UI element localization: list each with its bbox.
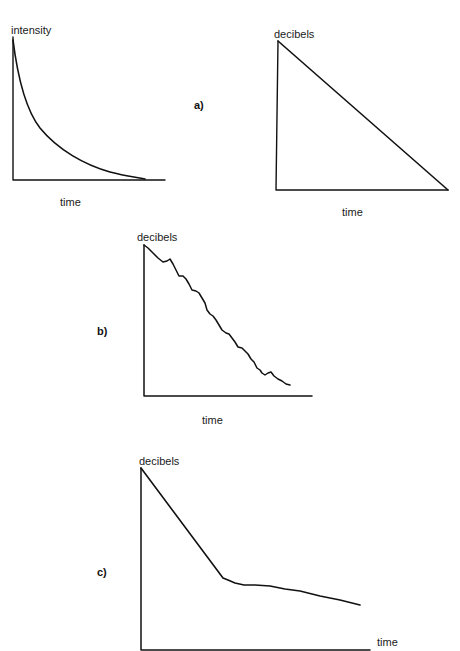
panel-a-decibels-line [278,41,448,190]
panel-c-axes [141,468,370,650]
panel-a-tag: a) [194,99,204,111]
panel-c-tag: c) [97,566,107,578]
panel-a-decibels-xlabel: time [342,206,363,218]
panel-b-tag: b) [97,325,107,337]
panel-b-axes [144,245,312,396]
panel-b-decay-line [144,245,290,385]
panel-b-ylabel: decibels [137,231,177,243]
panel-c-xlabel: time [377,636,398,648]
panel-c-ylabel: decibels [139,455,179,467]
panel-c-decay-line [141,468,360,605]
panel-a-intensity-xlabel: time [60,196,81,208]
figure-canvas [0,0,460,651]
panel-a-intensity-curve [13,40,145,179]
panel-a-intensity-ylabel: intensity [11,24,51,36]
panel-a-intensity-axes [13,37,165,180]
panel-b-xlabel: time [202,414,223,426]
panel-a-decibels-ylabel: decibels [274,28,314,40]
